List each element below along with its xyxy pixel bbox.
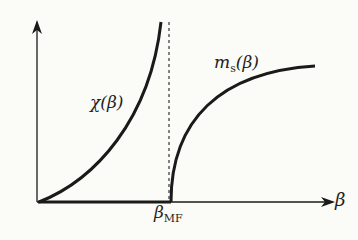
ms-label: ms(β): [214, 52, 259, 72]
chi-label: χ(β): [90, 92, 123, 112]
phase-transition-diagram: χ(β) ms(β) βMF β: [0, 0, 358, 240]
chi-curve: [39, 22, 161, 202]
x-axis-label: β: [335, 189, 345, 210]
beta-mf-label: βMF: [154, 202, 183, 222]
ms-curve: [171, 66, 315, 202]
